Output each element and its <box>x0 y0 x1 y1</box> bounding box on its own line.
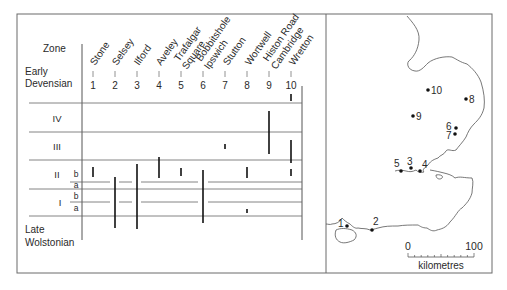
svg-text:3: 3 <box>134 80 140 91</box>
svg-text:kilometres: kilometres <box>418 260 464 271</box>
svg-text:8: 8 <box>244 80 250 91</box>
svg-text:Stone: Stone <box>88 39 112 67</box>
svg-text:0: 0 <box>405 240 411 252</box>
svg-text:2: 2 <box>373 216 379 227</box>
zone-header: Zone <box>43 43 66 54</box>
svg-text:100: 100 <box>465 240 483 252</box>
svg-text:5: 5 <box>178 80 184 91</box>
svg-text:Ilford: Ilford <box>132 43 154 68</box>
early-label-2: Devensian <box>25 78 72 89</box>
late-label-2: Wolstonian <box>25 237 74 248</box>
subzone-IIa: a <box>74 180 79 190</box>
site-numbers: 1 2 3 4 5 6 7 8 9 10 <box>90 80 297 91</box>
coastline-solent <box>326 218 370 230</box>
subzone-Ia: a <box>74 203 79 213</box>
zone-III-label: III <box>53 141 61 152</box>
late-label-1: Late <box>25 224 45 235</box>
svg-text:1: 1 <box>338 218 344 229</box>
site-names: Stone Selsey Ilford Aveley Trafalgar Squ… <box>88 12 316 71</box>
name-ticks <box>93 71 291 77</box>
zone-I-label: I <box>59 197 62 208</box>
svg-text:7: 7 <box>222 80 228 91</box>
svg-text:4: 4 <box>422 159 428 170</box>
site-map: 1 2 3 4 5 6 7 8 9 10 0 100 <box>326 16 484 271</box>
zone-IV-label: IV <box>53 113 63 124</box>
thames-estuary-islands <box>436 175 443 179</box>
svg-text:1: 1 <box>90 80 96 91</box>
svg-text:9: 9 <box>416 111 422 122</box>
svg-text:5: 5 <box>394 158 400 169</box>
svg-text:2: 2 <box>112 80 118 91</box>
subzone-IIb: b <box>74 169 79 179</box>
svg-text:9: 9 <box>266 80 272 91</box>
range-bars <box>93 94 291 229</box>
map-scale-bar: 0 100 kilometres <box>405 240 483 271</box>
figure: Zone Early Devensian Late Wolstonian IV … <box>0 0 507 290</box>
svg-text:3: 3 <box>407 156 413 167</box>
svg-text:Selsey: Selsey <box>110 36 136 67</box>
early-label-1: Early <box>25 66 48 77</box>
subzone-Ib: b <box>74 191 79 201</box>
map-sites: 1 2 3 4 5 6 7 8 9 10 <box>338 85 475 232</box>
svg-text:10: 10 <box>285 80 297 91</box>
coastline-kent <box>370 170 473 231</box>
svg-text:8: 8 <box>469 94 475 105</box>
svg-text:7: 7 <box>446 130 452 141</box>
svg-text:6: 6 <box>200 80 206 91</box>
zone-II-label: II <box>54 169 59 180</box>
isle-of-wight <box>335 229 356 243</box>
zone-chart: Zone Early Devensian Late Wolstonian IV … <box>25 12 316 248</box>
svg-text:4: 4 <box>156 80 162 91</box>
svg-text:10: 10 <box>431 85 443 96</box>
zone-gridlines <box>29 103 302 216</box>
